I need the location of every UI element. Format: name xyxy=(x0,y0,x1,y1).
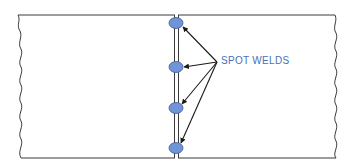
arrow-to-weld-3 xyxy=(182,62,217,104)
arrow-to-weld-4 xyxy=(181,62,217,143)
spot-welds xyxy=(169,18,183,154)
leader-arrows xyxy=(181,27,217,143)
arrow-to-weld-2 xyxy=(184,62,217,67)
right-sheet xyxy=(178,15,337,158)
arrow-to-weld-1 xyxy=(183,27,217,62)
spot-welds-label: SPOT WELDS xyxy=(221,55,289,66)
right-sheet-break-line xyxy=(335,15,337,158)
left-sheet-break-line xyxy=(18,15,22,158)
seam xyxy=(175,15,179,158)
spot-weld-diagram xyxy=(0,0,354,167)
spot-weld-1 xyxy=(169,18,183,29)
spot-weld-2 xyxy=(169,62,183,73)
left-sheet xyxy=(18,15,175,158)
spot-weld-4 xyxy=(169,143,183,154)
spot-weld-3 xyxy=(169,103,183,114)
